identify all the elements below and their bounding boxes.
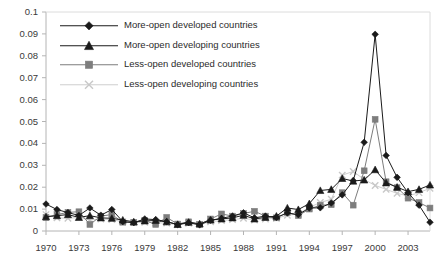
diamond-marker-icon [372, 31, 379, 38]
diamond-marker-icon [361, 139, 368, 146]
legend-item-1: More-open developed countries [58, 16, 248, 36]
legend-item-label: More-open developing countries [124, 40, 260, 50]
y-axis-tick-label: 0.07 [0, 73, 38, 83]
y-axis-tick-label: 0.09 [0, 29, 38, 39]
legend-item-2: More-open developing countries [58, 36, 248, 56]
square-marker-icon [361, 168, 367, 174]
legend-item-label: Less-open developed countries [124, 59, 256, 69]
legend-item-label: More-open developed countries [124, 20, 258, 30]
y-axis-tick-label: 0.01 [0, 204, 38, 214]
y-axis-tick-label: 0.1 [0, 7, 38, 17]
square-marker-icon [252, 208, 258, 214]
x-marker-icon [372, 182, 378, 188]
square-marker-icon [427, 205, 433, 211]
x-marker-icon [383, 186, 389, 192]
y-axis-tick-label: 0.08 [0, 51, 38, 61]
x-axis-tick-label: 2003 [386, 243, 430, 253]
diamond-marker-icon [85, 22, 93, 30]
y-axis-tick-label: 0 [0, 226, 38, 236]
legend-item-4: Less-open developing countries [58, 75, 248, 95]
line-chart: More-open developed countriesMore-open d… [0, 0, 442, 273]
square-marker-icon [372, 116, 378, 122]
legend-marker-swatch [58, 36, 120, 56]
chart-legend: More-open developed countriesMore-open d… [58, 16, 248, 94]
legend-item-3: Less-open developed countries [58, 55, 248, 75]
triangle-marker-icon [86, 212, 93, 219]
triangle-marker-icon [426, 181, 433, 188]
square-marker-icon [85, 61, 92, 68]
triangle-marker-icon [415, 186, 422, 193]
y-axis-tick-label: 0.06 [0, 95, 38, 105]
diamond-marker-icon [383, 152, 390, 159]
diamond-marker-icon [427, 219, 434, 226]
square-marker-icon [350, 202, 356, 208]
diamond-marker-icon [43, 201, 50, 208]
x-marker-icon [394, 190, 400, 196]
square-marker-icon [87, 222, 93, 228]
legend-marker-swatch [58, 75, 120, 95]
diamond-marker-icon [87, 205, 94, 212]
legend-marker-swatch [58, 16, 120, 36]
legend-marker-swatch [58, 55, 120, 75]
y-axis-tick-label: 0.05 [0, 117, 38, 127]
legend-item-label: Less-open developing countries [124, 79, 258, 89]
y-axis-tick-label: 0.04 [0, 138, 38, 148]
triangle-marker-icon [372, 166, 379, 173]
y-axis-tick-label: 0.03 [0, 160, 38, 170]
y-axis-tick-label: 0.02 [0, 182, 38, 192]
diamond-marker-icon [394, 174, 401, 181]
